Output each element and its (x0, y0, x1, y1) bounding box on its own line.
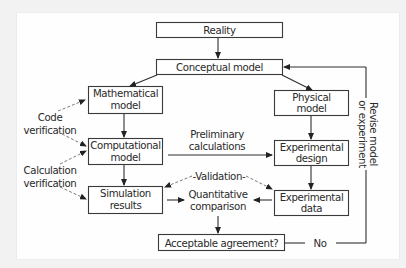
arrow-conceptual-physical (282, 75, 312, 90)
dashed-calc-to-computational (60, 151, 86, 164)
node-experimental-data: Experimental data (275, 191, 349, 216)
node-conceptual-model: Conceptual model (157, 60, 283, 75)
calculation-label: Calculation (24, 165, 77, 176)
node-simulation-label-2: results (110, 200, 142, 211)
label-revise: Revise model or experiment (357, 100, 379, 168)
verification-label-2: verification (24, 178, 77, 189)
label-no: No (313, 238, 326, 249)
code-label: Code (38, 112, 63, 123)
node-mathematical-model: Mathematical model (89, 87, 163, 114)
node-mathematical-label-1: Mathematical (93, 88, 158, 99)
node-reality-label: Reality (203, 25, 236, 36)
label-calculation-verification: Calculation verification (24, 165, 77, 189)
node-quantitative-label-2: comparison (190, 201, 246, 212)
node-acceptable-agreement: Acceptable agreement? (159, 235, 285, 251)
verification-label-1: verification (24, 125, 77, 136)
calculations-label: calculations (189, 141, 245, 152)
node-experimental-design-label-1: Experimental (280, 142, 344, 153)
label-code-verification: Code verification (24, 112, 77, 136)
node-mathematical-label-2: model (111, 100, 141, 111)
node-physical-label-1: Physical (292, 92, 331, 103)
revise-model-label: Revise model (368, 102, 379, 166)
node-simulation-label-1: Simulation (100, 188, 151, 199)
flowchart: Reality Conceptual model Mathematical mo… (0, 0, 406, 268)
node-experimental-design-label-2: design (296, 153, 328, 164)
dashed-validation-to-expdata (246, 176, 272, 189)
node-acceptable-label: Acceptable agreement? (165, 238, 279, 249)
node-experimental-design: Experimental design (275, 141, 349, 166)
node-experimental-data-label-2: data (301, 203, 323, 214)
label-preliminary-calculations: Preliminary calculations (189, 129, 245, 152)
node-experimental-data-label-1: Experimental (280, 192, 344, 203)
dashed-validation-to-simulation (165, 176, 192, 187)
node-conceptual-label: Conceptual model (176, 62, 263, 73)
preliminary-label: Preliminary (190, 129, 244, 140)
node-physical-label-2: model (297, 103, 327, 114)
node-physical-model: Physical model (275, 91, 349, 116)
node-computational-label-1: Computational (90, 140, 160, 151)
arrow-conceptual-mathematical (130, 75, 157, 86)
node-simulation-results: Simulation results (89, 187, 163, 214)
or-experiment-label: or experiment (357, 100, 368, 168)
node-quantitative-comparison: Quantitative comparison (188, 189, 247, 212)
node-reality: Reality (157, 23, 283, 38)
node-quantitative-label-1: Quantitative (188, 189, 247, 200)
node-computational-label-2: model (111, 152, 141, 163)
label-validation: -Validation- (193, 171, 247, 182)
node-computational-model: Computational model (89, 139, 163, 165)
dashed-code-to-mathematical (58, 100, 85, 111)
